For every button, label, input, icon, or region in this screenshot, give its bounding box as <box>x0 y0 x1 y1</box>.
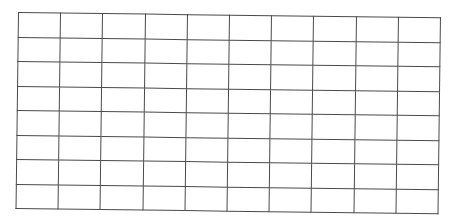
grid-cell <box>16 184 58 209</box>
grid-cell <box>185 137 227 162</box>
grid-cell <box>270 89 312 114</box>
grid-cell <box>185 162 227 187</box>
grid-cell <box>311 188 353 213</box>
grid-cell <box>269 187 311 212</box>
grid-cell <box>269 163 311 188</box>
grid-cell <box>355 66 397 91</box>
grid-cell <box>228 138 270 163</box>
grid-cell <box>228 64 270 89</box>
grid-cell <box>355 41 397 66</box>
grid-cell <box>356 17 398 42</box>
grid-cell <box>270 114 312 139</box>
grid-cell <box>271 40 313 65</box>
grid-cell <box>270 138 312 163</box>
grid-cell <box>143 186 185 211</box>
grid-cell <box>17 135 59 160</box>
grid-cell <box>312 163 354 188</box>
grid-cell <box>398 17 441 42</box>
grid-cell <box>186 113 228 138</box>
grid-cell <box>312 114 354 139</box>
grid-cell <box>59 87 101 112</box>
grid-cell <box>228 89 270 114</box>
grid-body <box>16 13 440 214</box>
grid-cell <box>354 115 396 140</box>
grid-cell <box>17 110 59 135</box>
grid-cell <box>227 162 269 187</box>
grid-cell <box>144 88 186 113</box>
grid-cell <box>228 113 270 138</box>
grid-cell <box>354 139 396 164</box>
grid-cell <box>312 139 354 164</box>
grid-cell <box>17 86 59 111</box>
grid-cell <box>227 187 269 212</box>
grid-cell <box>397 66 440 91</box>
grid-cell <box>58 185 100 210</box>
grid-cell <box>229 15 271 40</box>
grid-cell <box>397 91 440 116</box>
grid-cell <box>101 112 143 137</box>
grid-cell <box>186 64 228 89</box>
blank-grid-container <box>16 12 441 214</box>
grid-cell <box>187 15 229 40</box>
grid-cell <box>185 186 227 211</box>
grid-cell <box>186 88 228 113</box>
grid-cell <box>60 13 102 38</box>
grid-cell <box>143 161 185 186</box>
grid-cell <box>100 185 142 210</box>
grid-cell <box>271 16 313 41</box>
grid-cell <box>144 39 186 64</box>
grid-cell <box>102 87 144 112</box>
grid-cell <box>60 62 102 87</box>
grid-cell <box>396 189 439 214</box>
grid-cell <box>144 112 186 137</box>
grid-cell <box>59 160 101 185</box>
grid-cell <box>355 90 397 115</box>
grid-cell <box>59 111 101 136</box>
grid-cell <box>229 40 271 65</box>
grid-cell <box>354 188 396 213</box>
grid-cell <box>101 161 143 186</box>
grid-cell <box>18 62 60 87</box>
grid-cell <box>397 115 440 140</box>
grid-cell <box>354 164 396 189</box>
grid-cell <box>396 164 439 189</box>
grid-cell <box>102 38 144 63</box>
grid-cell <box>59 136 101 161</box>
grid-cell <box>60 38 102 63</box>
grid-cell <box>145 14 187 39</box>
grid-cell <box>396 140 439 165</box>
grid-cell <box>102 63 144 88</box>
grid-cell <box>313 65 355 90</box>
grid-row <box>16 184 438 214</box>
grid-cell <box>18 37 60 62</box>
grid-cell <box>143 137 185 162</box>
grid-cell <box>313 90 355 115</box>
grid-cell <box>313 16 355 41</box>
grid-cell <box>271 65 313 90</box>
grid-cell <box>144 63 186 88</box>
grid-cell <box>18 13 60 38</box>
grid-cell <box>101 136 143 161</box>
grid-cell <box>398 42 441 67</box>
grid-cell <box>103 14 145 39</box>
grid-cell <box>16 159 58 184</box>
grid-cell <box>187 39 229 64</box>
grid-cell <box>313 41 355 66</box>
blank-grid-table <box>16 12 441 214</box>
